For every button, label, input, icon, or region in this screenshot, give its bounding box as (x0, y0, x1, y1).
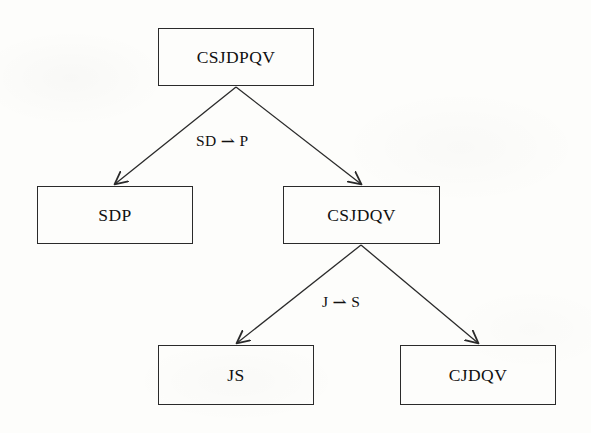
node-label-sdp: SDP (98, 205, 131, 226)
node-label-cjdqv: CJDQV (449, 365, 507, 386)
right-harpoon-arrow-icon: ⇀ (333, 292, 348, 313)
diagram-canvas: CSJDPQV SDP CSJDQV JS CJDQV SD ⇀ P J ⇀ S (0, 0, 591, 433)
edge-root-to-csjdqv (236, 87, 361, 184)
edge-label-j-s-lhs: J (322, 293, 329, 311)
edge-label-j-s-rhs: S (351, 293, 360, 311)
node-box-root: CSJDPQV (158, 28, 314, 86)
node-box-csjdqv: CSJDQV (283, 186, 440, 244)
node-label-csjdqv: CSJDQV (327, 205, 396, 226)
node-box-cjdqv: CJDQV (400, 345, 556, 405)
node-label-root: CSJDPQV (197, 47, 276, 68)
edge-label-j-s: J ⇀ S (322, 291, 360, 312)
node-box-sdp: SDP (37, 186, 193, 244)
edge-label-sd-p-lhs: SD (196, 132, 217, 150)
edge-label-sd-p: SD ⇀ P (196, 130, 249, 151)
right-harpoon-arrow-icon: ⇀ (221, 131, 236, 152)
edge-label-sd-p-rhs: P (240, 132, 249, 150)
edge-csjdqv-to-cjdqv (361, 245, 478, 343)
node-label-js: JS (227, 365, 244, 386)
node-box-js: JS (158, 345, 314, 405)
